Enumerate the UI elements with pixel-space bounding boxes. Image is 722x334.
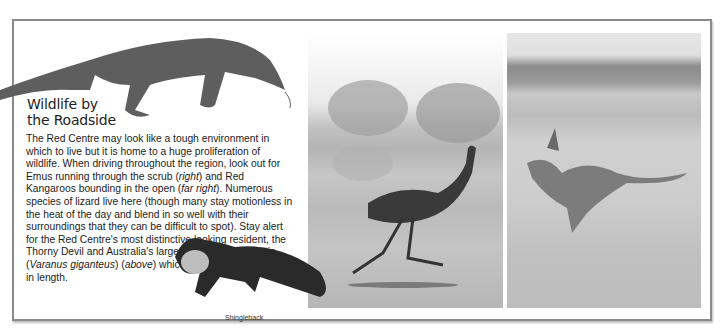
shingleback-lizard-image — [160, 222, 335, 312]
body-italic-latin: Varanus giganteus — [29, 259, 115, 270]
emu-photo — [308, 33, 503, 308]
emu-illustration — [308, 33, 503, 308]
article-heading: Wildlife by the Roadside — [27, 96, 116, 128]
body-italic-right: right — [179, 171, 199, 182]
heading-line-1: Wildlife by — [27, 96, 116, 112]
heading-line-2: the Roadside — [27, 112, 116, 128]
body-italic-above: above — [125, 259, 153, 270]
kangaroo-photo — [507, 33, 701, 308]
body-text-4: ) ( — [115, 259, 125, 270]
body-italic-far-right: far right — [181, 183, 216, 194]
kangaroo-illustration — [507, 33, 701, 308]
shingleback-caption: Shingleback — [225, 314, 263, 321]
